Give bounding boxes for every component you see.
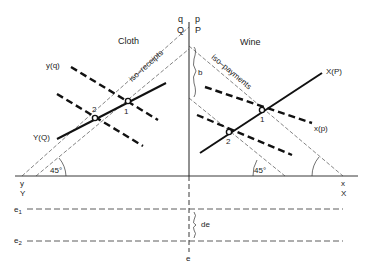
right-point-1 — [259, 107, 264, 112]
label-e: e — [186, 254, 191, 263]
label-right-45: 45° — [254, 166, 266, 175]
left-point-2 — [92, 115, 97, 120]
e1-sub: 1 — [18, 209, 22, 215]
label-Y: Y — [20, 189, 26, 198]
wine-title: Wine — [240, 37, 261, 47]
label-left-point-1: 1 — [124, 107, 129, 116]
label-P: P — [195, 25, 201, 35]
label-X: X — [341, 189, 347, 198]
label-b: b — [198, 68, 203, 77]
brace-de — [193, 212, 196, 238]
left-point-1 — [125, 98, 130, 103]
label-e1: e1 — [14, 205, 22, 215]
label-Y-Q: Y(Q) — [33, 133, 50, 142]
label-q: q — [178, 14, 183, 24]
label-e2: e2 — [14, 236, 22, 246]
right-45-arc-outer — [312, 157, 319, 176]
trade-diagram: Cloth Wine q Q p P y Y x X e e1 e2 y(q) … — [0, 0, 373, 268]
e2-sub: 2 — [18, 240, 22, 246]
label-p: p — [195, 14, 200, 24]
iso-receipts-outer — [22, 27, 189, 176]
label-x: x — [341, 179, 345, 188]
x-p-curve-upper — [205, 87, 312, 123]
iso-payments-outer — [189, 46, 343, 176]
label-y-q: y(q) — [46, 61, 60, 70]
label-y: y — [20, 179, 24, 188]
brace-b — [193, 47, 196, 97]
label-iso-payments: iso–payments — [210, 53, 254, 92]
label-x-p: x(p) — [314, 124, 328, 133]
label-de: de — [201, 220, 210, 229]
label-left-point-2: 2 — [92, 105, 97, 114]
label-X-P: X(P) — [326, 67, 342, 76]
cloth-title: Cloth — [118, 36, 139, 46]
label-right-point-1: 1 — [260, 115, 265, 124]
label-Q: Q — [177, 25, 184, 35]
label-left-45: 45° — [50, 166, 62, 175]
right-point-2 — [226, 129, 231, 134]
label-right-point-2: 2 — [226, 137, 231, 146]
label-iso-receipts: iso–receipts — [127, 48, 165, 83]
